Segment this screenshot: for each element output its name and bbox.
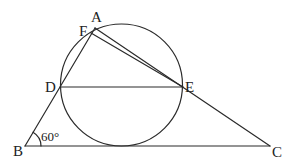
label-a: A — [91, 9, 102, 25]
segment-fe — [91, 33, 183, 87]
label-e: E — [185, 79, 194, 95]
angle-label-b: 60° — [41, 129, 59, 144]
geometry-diagram: A F D E B C 60° — [0, 0, 289, 164]
angle-arc-b — [33, 132, 41, 146]
label-c: C — [272, 144, 282, 160]
label-d: D — [45, 79, 56, 95]
label-b: B — [13, 143, 23, 159]
circle — [61, 24, 183, 146]
label-f: F — [79, 23, 87, 39]
